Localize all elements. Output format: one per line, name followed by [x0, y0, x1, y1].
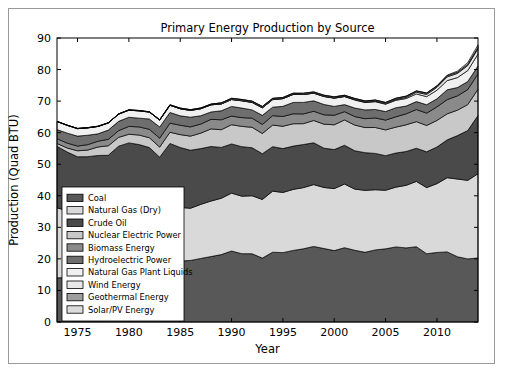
x-tick-label: 2010 [423, 326, 451, 339]
legend-label-crude-oil: Crude Oil [88, 218, 127, 228]
legend-label-solar-pv-energy: Solar/PV Energy [88, 305, 154, 315]
y-tick-label: 30 [37, 221, 51, 234]
y-tick-label: 20 [37, 253, 51, 266]
x-tick-label: 1995 [269, 326, 297, 339]
x-axis-title: Year [254, 342, 280, 356]
x-tick-label: 1975 [64, 326, 92, 339]
legend-swatch-nuclear-electric-power [67, 231, 83, 238]
y-tick-label: 10 [37, 284, 51, 297]
legend-swatch-geothermal-energy [67, 293, 83, 300]
legend-swatch-solar-pv-energy [67, 306, 83, 313]
y-axis-title: Production (Quad BTU) [7, 114, 21, 246]
stacked-area-chart: 0102030405060708090197519801985199019952… [0, 0, 505, 374]
x-tick-label: 1985 [166, 326, 194, 339]
y-tick-label: 90 [37, 32, 51, 45]
y-tick-label: 70 [37, 95, 51, 108]
legend-swatch-natural-gas-dry [67, 207, 83, 214]
legend-label-wind-energy: Wind Energy [88, 280, 141, 290]
chart-legend: CoalNatural Gas (Dry)Crude OilNuclear El… [62, 187, 193, 321]
legend-swatch-wind-energy [67, 281, 83, 288]
y-tick-label: 80 [37, 64, 51, 77]
x-tick-label: 1980 [115, 326, 143, 339]
x-tick-label: 2000 [320, 326, 348, 339]
legend-label-hydroelectric-power: Hydroelectric Power [88, 255, 172, 265]
legend-label-geothermal-energy: Geothermal Energy [88, 292, 169, 302]
chart-title: Primary Energy Production by Source [160, 21, 374, 35]
legend-swatch-natural-gas-plant-liquids [67, 269, 83, 276]
legend-swatch-crude-oil [67, 219, 83, 226]
legend-label-biomass-energy: Biomass Energy [88, 243, 155, 253]
legend-label-coal: Coal [88, 193, 106, 203]
legend-swatch-coal [67, 194, 83, 201]
x-tick-label: 1990 [218, 326, 246, 339]
legend-label-nuclear-electric-power: Nuclear Electric Power [88, 230, 182, 240]
legend-swatch-biomass-energy [67, 244, 83, 251]
y-tick-label: 40 [37, 190, 51, 203]
legend-swatch-hydroelectric-power [67, 256, 83, 263]
chart-canvas: 0102030405060708090197519801985199019952… [0, 0, 505, 374]
y-tick-label: 0 [44, 316, 51, 329]
legend-label-natural-gas-dry: Natural Gas (Dry) [88, 205, 161, 215]
legend-label-natural-gas-plant-liquids: Natural Gas Plant Liquids [88, 267, 193, 277]
y-tick-label: 60 [37, 127, 51, 140]
y-tick-label: 50 [37, 158, 51, 171]
x-tick-label: 2005 [372, 326, 400, 339]
